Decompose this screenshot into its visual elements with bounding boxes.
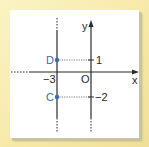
x-tick-label-minus3: −3 — [43, 73, 56, 85]
y-axis-label: y — [82, 20, 88, 32]
coordinate-plane: y x O −3 1 −2 D C — [0, 0, 149, 147]
point-c-label: C — [46, 91, 54, 103]
point-d — [55, 58, 59, 62]
y-axis-arrow-icon — [89, 20, 94, 27]
point-d-label: D — [46, 54, 54, 66]
y-tick-label-minus2: −2 — [95, 91, 108, 103]
origin-label: O — [81, 73, 90, 85]
point-c — [55, 95, 59, 99]
x-axis-label: x — [132, 74, 138, 86]
y-tick-label-1: 1 — [96, 54, 102, 66]
